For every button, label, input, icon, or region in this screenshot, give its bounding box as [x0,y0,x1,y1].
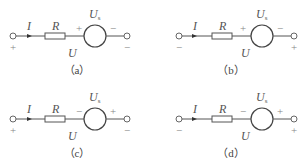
panel-caption: （a） [0,65,154,76]
source-label: Us [256,91,267,105]
terminal-right-sign: + [291,125,297,136]
resistor-label: R [52,103,59,115]
circuit-panel-a: I R Us U + − + − （a） [0,0,154,83]
voltage-label: U [241,130,250,142]
terminal-right-sign: − [124,42,130,53]
source-right-sign: + [277,106,283,117]
source-label: Us [89,8,100,22]
circuit-panel-b: I R Us U − + + − （b） [154,0,308,83]
current-label: I [27,20,31,32]
source-left-sign: − [76,106,82,117]
source-right-sign: − [110,23,116,34]
source-right-sign: + [110,106,116,117]
source-left-sign: − [240,106,246,117]
resistor-label: R [219,103,226,115]
panel-caption: （d） [154,148,308,159]
source-right-sign: − [277,23,283,34]
circuit-panel-c: I R Us U + − − + （c） [0,83,154,166]
source-left-sign: + [76,23,82,34]
terminal-left-sign: − [176,125,182,136]
source-label: Us [256,8,267,22]
terminal-right-sign: − [124,125,130,136]
voltage-label: U [241,47,250,59]
resistor-label: R [52,20,59,32]
resistor-label: R [219,20,226,32]
current-label: I [193,20,197,32]
voltage-label: U [68,130,77,142]
terminal-right-sign: + [291,42,297,53]
terminal-left-sign: − [176,42,182,53]
source-label: Us [89,91,100,105]
panel-caption: （b） [154,65,308,76]
current-label: I [193,103,197,115]
source-left-sign: + [240,23,246,34]
terminal-left-sign: + [10,42,16,53]
panel-caption: （c） [0,148,154,159]
terminal-left-sign: + [10,125,16,136]
current-label: I [27,103,31,115]
circuit-panel-d: I R Us U − + − + （d） [154,83,308,166]
voltage-label: U [68,47,77,59]
